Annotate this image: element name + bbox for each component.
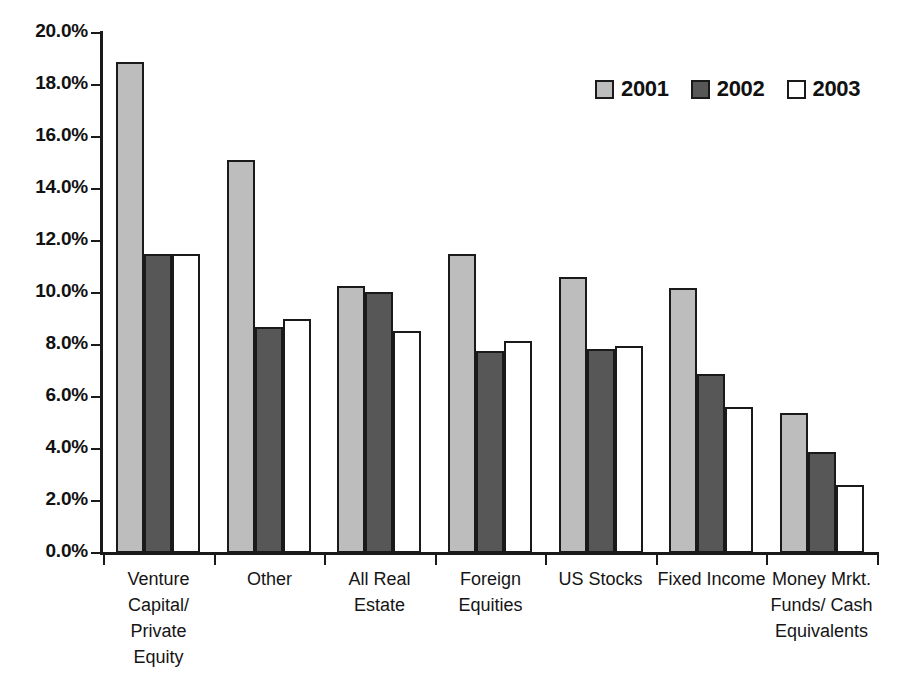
y-axis-tick xyxy=(91,500,101,502)
y-axis-labels: 20.0%18.0%16.0%14.0%12.0%10.0%8.0%6.0%4.… xyxy=(0,0,88,674)
y-axis-tick-label: 4.0% xyxy=(2,436,88,458)
bar-2003-2 xyxy=(393,331,421,553)
y-axis-tick-label: 18.0% xyxy=(2,72,88,94)
chart-legend: 200120022003 xyxy=(595,76,860,102)
bar-2001-4 xyxy=(559,277,587,553)
y-axis-tick xyxy=(91,32,101,34)
bar-2003-5 xyxy=(725,407,753,553)
bar-2001-1 xyxy=(227,160,255,553)
y-axis-tick-label: 10.0% xyxy=(2,280,88,302)
y-axis-tick xyxy=(91,188,101,190)
bar-2002-2 xyxy=(365,292,393,553)
category-label: Foreign Equities xyxy=(435,566,546,618)
legend-entry-2002[interactable]: 2002 xyxy=(691,76,765,102)
x-axis-tick xyxy=(324,554,326,565)
x-axis-tick xyxy=(103,554,105,565)
bar-2002-3 xyxy=(476,351,504,553)
bar-2002-5 xyxy=(697,374,725,553)
category-label: Other xyxy=(214,566,325,592)
bar-2001-2 xyxy=(337,286,365,553)
y-axis-tick-label: 6.0% xyxy=(2,384,88,406)
legend-entry-2003[interactable]: 2003 xyxy=(787,76,861,102)
category-label: Fixed Income xyxy=(656,566,767,592)
y-axis-tick xyxy=(91,84,101,86)
chart-page: 20.0%18.0%16.0%14.0%12.0%10.0%8.0%6.0%4.… xyxy=(0,0,900,674)
category-label: Venture Capital/ Private Equity xyxy=(103,566,214,670)
y-axis-tick-label: 2.0% xyxy=(2,488,88,510)
bar-2002-1 xyxy=(255,327,283,553)
x-axis-tick xyxy=(545,554,547,565)
y-axis-tick xyxy=(91,552,101,554)
bar-2003-0 xyxy=(172,254,200,553)
x-axis-tick xyxy=(214,554,216,565)
y-axis-tick-label: 20.0% xyxy=(2,20,88,42)
bar-2001-6 xyxy=(780,413,808,553)
x-axis-tick xyxy=(435,554,437,565)
y-axis-tick-label: 8.0% xyxy=(2,332,88,354)
bar-2001-0 xyxy=(116,62,144,553)
category-label: US Stocks xyxy=(545,566,656,592)
legend-swatch-icon xyxy=(691,80,710,99)
x-axis-tick xyxy=(656,554,658,565)
bar-2003-1 xyxy=(283,319,311,553)
y-axis-tick xyxy=(91,448,101,450)
y-axis-tick xyxy=(91,292,101,294)
x-axis-tick xyxy=(766,554,768,565)
bar-2002-4 xyxy=(587,349,615,553)
bar-2003-3 xyxy=(504,341,532,553)
legend-swatch-icon xyxy=(595,80,614,99)
y-axis-tick xyxy=(91,396,101,398)
plot-area xyxy=(103,33,877,553)
legend-swatch-icon xyxy=(787,80,806,99)
bar-2003-4 xyxy=(615,346,643,553)
y-axis-tick xyxy=(91,136,101,138)
legend-label: 2003 xyxy=(813,76,861,102)
y-axis-tick-label: 16.0% xyxy=(2,124,88,146)
legend-entry-2001[interactable]: 2001 xyxy=(595,76,669,102)
legend-label: 2002 xyxy=(717,76,765,102)
category-label: Money Mrkt. Funds/ Cash Equivalents xyxy=(766,566,877,644)
bar-2001-3 xyxy=(448,254,476,553)
y-axis-tick-label: 12.0% xyxy=(2,228,88,250)
y-axis-tick xyxy=(91,344,101,346)
x-axis-tick xyxy=(877,554,879,565)
y-axis-tick-label: 0.0% xyxy=(2,540,88,562)
y-axis-tick-label: 14.0% xyxy=(2,176,88,198)
y-axis-tick xyxy=(91,240,101,242)
category-label: All Real Estate xyxy=(324,566,435,618)
bar-2002-6 xyxy=(808,452,836,553)
legend-label: 2001 xyxy=(621,76,669,102)
bar-2003-6 xyxy=(836,485,864,553)
bar-2002-0 xyxy=(144,254,172,553)
bar-2001-5 xyxy=(669,288,697,553)
